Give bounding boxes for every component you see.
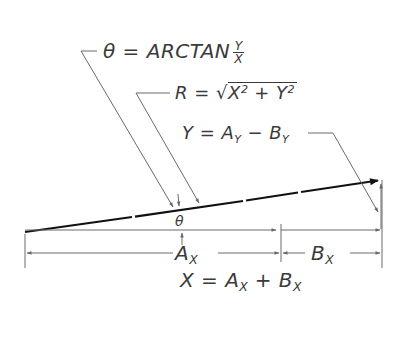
resultant-vector <box>25 181 378 233</box>
r-leader-line <box>136 93 199 203</box>
square-root: √X2 + Y2 <box>216 82 297 102</box>
radical-sign-icon: √ <box>216 82 228 103</box>
r-formula-label: R = √X2 + Y2 <box>175 82 297 102</box>
y-formula-label: Y = AY − BY <box>182 124 289 145</box>
theta-leader-line <box>81 51 173 207</box>
arctan-text: = ARCTAN <box>116 39 231 63</box>
ax-dimension-label: AX <box>175 243 198 267</box>
theta-angle-label: θ <box>175 214 184 228</box>
theta-formula-label: θ = ARCTANYX <box>103 40 244 65</box>
bx-dimension-label: BX <box>311 243 334 267</box>
y-leader-line <box>308 133 378 212</box>
vector-diagram: θ = ARCTANYX R = √X2 + Y2 Y = AY − BY θ … <box>0 0 404 345</box>
angle-arc-pointer <box>178 194 179 206</box>
theta-symbol: θ <box>103 39 116 63</box>
x-formula-label: X = AX + BX <box>180 270 302 294</box>
y-over-x-fraction: YX <box>233 40 244 65</box>
